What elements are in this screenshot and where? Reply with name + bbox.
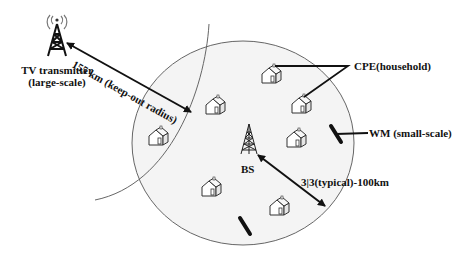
wm-label: WM (small-scale): [369, 127, 452, 139]
base-station-label: BS: [241, 163, 254, 175]
cpe-label: CPE(household): [354, 60, 431, 72]
tv-tower-icon: [47, 15, 67, 56]
cell-radius-label: 3|3(typical)-100km: [301, 176, 389, 188]
wm-callout-line: [336, 133, 368, 134]
diagram-canvas: TV transmitter (large-scale) 155 km (kee…: [0, 0, 457, 255]
